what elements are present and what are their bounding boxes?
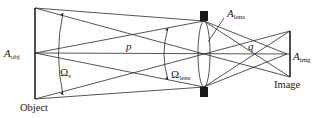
ray: [204, 54, 290, 77]
lens-diagram: Aobj Alens Aimg Ωs Ωlens p q Object Imag…: [0, 0, 325, 118]
optical-axis: [35, 53, 290, 54]
ray: [204, 21, 290, 77]
a-lens-pointer: [208, 18, 224, 42]
label-omega-s: Ωs: [60, 66, 71, 80]
lens-aperture-bottom: [200, 87, 208, 97]
caption-object: Object: [20, 102, 48, 113]
label-omega-lens: Ωlens: [171, 68, 191, 82]
lens-aperture-top: [200, 11, 208, 21]
ray: [204, 21, 287, 54]
label-q: q: [248, 40, 254, 52]
label-a-lens: Alens: [226, 7, 245, 21]
omega-lens-arc: [164, 28, 168, 80]
ray: [204, 31, 290, 54]
omega-s-arc: [59, 13, 64, 95]
label-a-img: Aimg: [292, 50, 311, 64]
label-a-obj: Aobj: [3, 47, 20, 61]
caption-image: Image: [274, 79, 301, 90]
label-p: p: [125, 40, 132, 52]
